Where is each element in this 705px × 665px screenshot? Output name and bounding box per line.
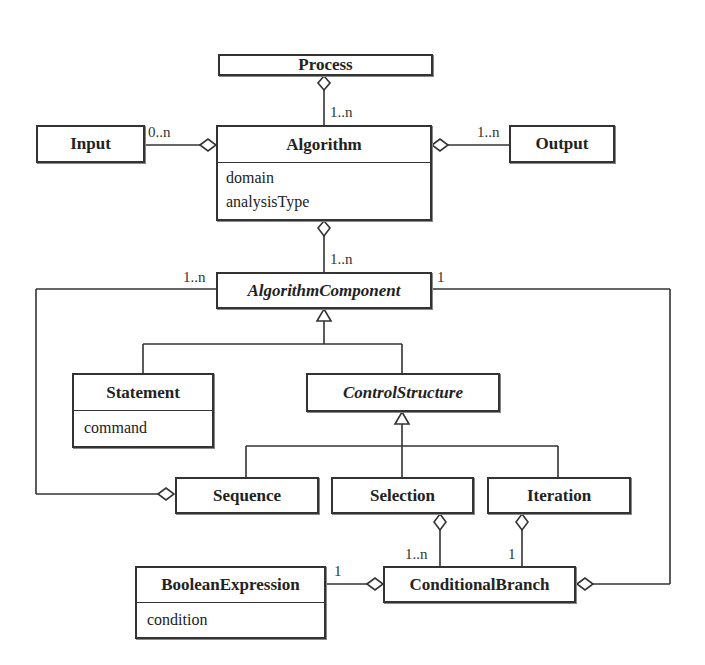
attribute: command xyxy=(84,414,202,442)
aggregation-diamond-icon xyxy=(318,76,330,90)
class-selection: Selection xyxy=(331,477,474,514)
class-attributes: condition xyxy=(137,602,324,637)
aggregation-diamond-icon xyxy=(158,488,174,500)
attribute: condition xyxy=(147,606,314,634)
connector-layer xyxy=(0,0,705,665)
class-sequence: Sequence xyxy=(175,477,319,514)
generalization-triangle-icon xyxy=(395,412,409,424)
class-name: BooleanExpression xyxy=(137,568,324,602)
class-name: Output xyxy=(511,127,613,161)
aggregation-diamond-icon xyxy=(367,578,383,590)
multiplicity-label: 1..n xyxy=(405,546,428,563)
class-boolean-expression: BooleanExpression condition xyxy=(135,566,326,639)
aggregation-diamond-icon xyxy=(200,139,216,151)
multiplicity-label: 1..n xyxy=(477,124,500,141)
class-name: Process xyxy=(220,56,431,74)
aggregation-diamond-icon xyxy=(432,139,448,151)
class-name: Selection xyxy=(333,479,472,512)
multiplicity-label: 1..n xyxy=(330,251,353,268)
class-input: Input xyxy=(36,125,145,163)
class-name: Iteration xyxy=(489,479,629,512)
class-output: Output xyxy=(509,125,615,163)
class-statement: Statement command xyxy=(72,373,214,448)
class-attributes: domain analysisType xyxy=(218,162,430,217)
multiplicity-label: 1..n xyxy=(183,269,206,286)
class-attributes: command xyxy=(74,410,212,445)
aggregation-diamond-icon xyxy=(516,514,528,530)
class-name: AlgorithmComponent xyxy=(218,274,430,307)
multiplicity-label: 1 xyxy=(437,269,445,286)
attribute: domain xyxy=(226,166,422,190)
attribute: analysisType xyxy=(226,190,422,214)
multiplicity-label: 1 xyxy=(334,563,342,580)
aggregation-diamond-icon xyxy=(318,221,330,236)
class-name: Sequence xyxy=(177,479,317,512)
multiplicity-label: 1 xyxy=(508,546,516,563)
class-iteration: Iteration xyxy=(487,477,631,514)
aggregation-diamond-icon xyxy=(577,578,593,590)
class-conditional-branch: ConditionalBranch xyxy=(383,566,576,603)
multiplicity-label: 0..n xyxy=(148,124,171,141)
class-name: ConditionalBranch xyxy=(385,568,574,601)
class-algorithm: Algorithm domain analysisType xyxy=(216,125,432,221)
generalization-triangle-icon xyxy=(317,309,331,321)
class-name: Statement xyxy=(74,375,212,410)
class-name: Input xyxy=(38,127,143,161)
multiplicity-label: 1..n xyxy=(330,104,353,121)
aggregation-diamond-icon xyxy=(434,514,446,530)
class-process: Process xyxy=(218,54,433,76)
class-algorithm-component: AlgorithmComponent xyxy=(216,272,432,309)
class-control-structure: ControlStructure xyxy=(306,373,500,412)
class-name: Algorithm xyxy=(218,127,430,162)
class-name: ControlStructure xyxy=(308,375,498,410)
